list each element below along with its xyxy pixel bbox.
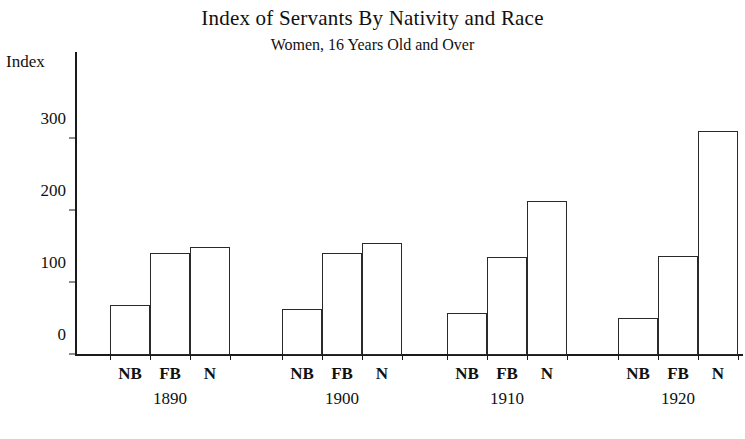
bar [150, 253, 190, 355]
x-axis-category-label: FB [159, 364, 181, 384]
x-axis-tick-mark [402, 354, 403, 360]
x-axis-tick-mark [150, 354, 151, 360]
x-axis-tick-mark [282, 354, 283, 360]
x-axis-category-label: FB [496, 364, 518, 384]
bar [282, 309, 322, 355]
x-axis-tick-mark [362, 354, 363, 360]
x-axis-category-label: NB [118, 364, 142, 384]
bar [698, 131, 738, 355]
x-axis-category-label: NB [290, 364, 314, 384]
plot-area: 0100200300 [75, 52, 743, 355]
bar [322, 253, 362, 355]
bar [527, 201, 567, 355]
x-axis-category-label: N [204, 364, 216, 384]
y-axis-tick-label: 0 [58, 325, 67, 345]
x-axis-category-label: FB [667, 364, 689, 384]
x-axis-tick-mark [618, 354, 619, 360]
x-axis-tick-mark [658, 354, 659, 360]
y-axis-tick-label: 200 [41, 181, 67, 201]
bar [447, 313, 487, 355]
x-axis-group-label: 1890 [153, 389, 187, 409]
y-axis-tick-label: 300 [41, 109, 67, 129]
x-axis-category-label: FB [331, 364, 353, 384]
x-axis-tick-mark [487, 354, 488, 360]
chart-title: Index of Servants By Nativity and Race [0, 6, 745, 31]
x-axis-group-label: 1920 [661, 389, 695, 409]
x-axis-category-label: N [541, 364, 553, 384]
x-axis-tick-mark [110, 354, 111, 360]
chart-figure: Index of Servants By Nativity and Race W… [0, 0, 745, 439]
bar [362, 243, 402, 355]
y-axis-title: Index [6, 52, 45, 72]
x-axis-tick-mark [190, 354, 191, 360]
x-axis-category-label: N [376, 364, 388, 384]
x-axis-tick-mark [230, 354, 231, 360]
x-axis-tick-mark [527, 354, 528, 360]
x-axis-category-label: NB [455, 364, 479, 384]
x-axis-tick-mark [567, 354, 568, 360]
bar [190, 247, 230, 355]
bar [110, 305, 150, 355]
bar [487, 257, 527, 355]
x-axis-tick-mark [447, 354, 448, 360]
x-axis-category-label: N [712, 364, 724, 384]
x-axis-tick-mark [698, 354, 699, 360]
x-axis-category-label: NB [626, 364, 650, 384]
y-axis-tick-label: 100 [41, 253, 67, 273]
x-axis-group-label: 1910 [490, 389, 524, 409]
y-axis-tick-mark [69, 138, 75, 139]
x-axis-tick-mark [322, 354, 323, 360]
bar [618, 318, 658, 355]
x-axis-group-label: 1900 [325, 389, 359, 409]
y-axis-tick-mark [69, 354, 75, 355]
y-axis-tick-mark [69, 282, 75, 283]
bar [658, 256, 698, 355]
x-axis-tick-mark [738, 354, 739, 360]
y-axis-tick-mark [69, 210, 75, 211]
